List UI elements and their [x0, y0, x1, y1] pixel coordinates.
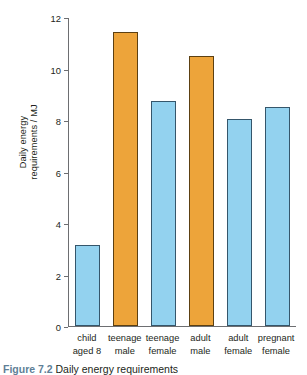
y-axis-title-line1: Daily energy	[18, 116, 29, 168]
figure-caption-text: Daily energy requirements	[53, 363, 178, 375]
bar-series	[69, 18, 296, 326]
bar-child-aged-8	[75, 245, 100, 326]
bar-teenage-female	[151, 101, 176, 326]
category-label-pregnant-female: pregnantfemale	[253, 332, 299, 359]
y-tick-mark	[64, 70, 68, 71]
y-tick-label: 12	[51, 13, 61, 24]
bar-pregnant-female	[265, 107, 290, 326]
y-tick-label: 6	[56, 167, 61, 178]
x-axis-category-labels: childaged 8teenagemaleteenagefemaleadult…	[68, 332, 296, 366]
category-label-line1: teenage	[146, 333, 180, 343]
category-label-line1: adult	[190, 333, 210, 343]
y-tick-label: 8	[56, 116, 61, 127]
y-tick-mark	[64, 18, 68, 19]
category-label-line1: adult	[228, 333, 248, 343]
y-tick-mark	[64, 173, 68, 174]
bar-adult-male	[189, 56, 214, 326]
y-tick-label: 10	[51, 64, 61, 75]
y-tick-mark	[64, 276, 68, 277]
category-label-line1: pregnant	[258, 333, 295, 343]
figure-caption-label: Figure 7.2	[3, 363, 53, 375]
y-tick-mark	[64, 224, 68, 225]
figure-caption: Figure 7.2 Daily energy requirements	[3, 363, 178, 375]
y-tick-label: 0	[56, 322, 61, 333]
y-tick-mark	[64, 327, 68, 328]
category-label-line2: female	[253, 345, 299, 358]
y-tick-label: 2	[56, 270, 61, 281]
y-axis-title-line2: requirements / MJ	[29, 104, 40, 179]
y-axis-title: Daily energy requirements / MJ	[9, 67, 49, 217]
bar-teenage-male	[113, 32, 138, 326]
bar-adult-female	[227, 119, 252, 326]
y-tick-label: 4	[56, 219, 61, 230]
category-label-line1: teenage	[108, 333, 142, 343]
plot-area: 024681012	[68, 18, 296, 327]
category-label-line1: child	[77, 333, 96, 343]
y-tick-mark	[64, 121, 68, 122]
